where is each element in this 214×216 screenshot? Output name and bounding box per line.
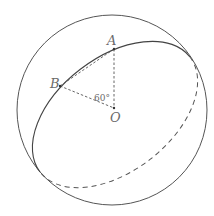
great-circle-front-arc bbox=[5, 12, 190, 172]
point-A bbox=[113, 48, 115, 50]
point-O bbox=[113, 107, 115, 109]
label-A: A bbox=[106, 33, 116, 48]
label-B: B bbox=[49, 76, 60, 91]
angle-label: 60° bbox=[94, 93, 110, 103]
sphere-diagram: A B O 60° bbox=[0, 0, 214, 216]
label-O: O bbox=[110, 110, 121, 125]
segment-AB bbox=[60, 49, 114, 86]
